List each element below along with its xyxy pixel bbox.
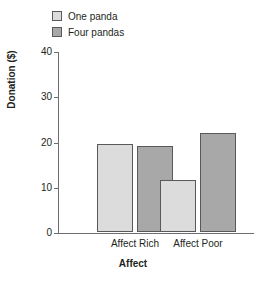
- x-axis-line: [58, 233, 254, 234]
- y-tick-label: 30: [41, 92, 52, 102]
- y-tick-mark: [54, 52, 58, 53]
- y-tick-mark: [54, 188, 58, 189]
- legend-label-four-pandas: Four pandas: [68, 27, 124, 38]
- y-tick-mark: [54, 233, 58, 234]
- bar-chart-figure: One panda Four pandas 010203040 Affect R…: [0, 0, 266, 281]
- chart-legend: One panda Four pandas: [52, 9, 182, 41]
- y-tick-mark: [54, 97, 58, 98]
- y-tick-label: 20: [41, 138, 52, 148]
- x-category-label-2: Affect Poor: [173, 238, 222, 249]
- x-category-label-1: Affect Rich: [111, 238, 159, 249]
- legend-swatch-four-pandas: [52, 27, 62, 37]
- y-axis-title: Donation ($): [6, 25, 17, 135]
- y-tick-label: 10: [41, 183, 52, 193]
- bar-affect-poor-four-pandas: [200, 133, 236, 232]
- bar-affect-poor-one-panda: [160, 180, 196, 232]
- bar-affect-rich-one-panda: [97, 144, 133, 232]
- y-tick-mark: [54, 143, 58, 144]
- x-axis-title: Affect: [0, 258, 266, 269]
- y-tick-label: 40: [41, 47, 52, 57]
- plot-area: 010203040 Affect RichAffect Poor: [58, 52, 254, 233]
- legend-item-one-panda: One panda: [52, 9, 182, 23]
- legend-swatch-one-panda: [52, 11, 62, 21]
- legend-label-one-panda: One panda: [68, 11, 118, 22]
- y-tick-label: 0: [46, 228, 52, 238]
- legend-item-four-pandas: Four pandas: [52, 25, 182, 39]
- y-axis-line: [58, 52, 59, 233]
